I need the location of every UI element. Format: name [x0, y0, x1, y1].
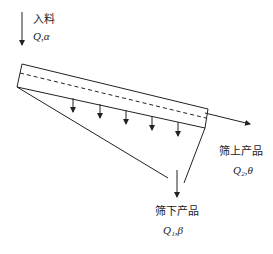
screen-deck	[17, 64, 208, 128]
overflow-symbol: Q₂,θ	[233, 164, 254, 176]
screen-mesh-dashed-line	[20, 73, 206, 118]
feed-symbol: Q,α	[33, 30, 50, 42]
underflow-symbol: Q₁,β	[163, 224, 184, 236]
overflow-label: 筛上产品	[219, 144, 263, 158]
feed-label: 入料	[33, 12, 55, 26]
overflow-arrow	[205, 113, 250, 124]
screening-diagram: 入料 Q,α 筛上产品 Q₂,θ 筛下产品 Q₁,β	[0, 0, 273, 254]
underflow-label: 筛下产品	[155, 204, 199, 218]
